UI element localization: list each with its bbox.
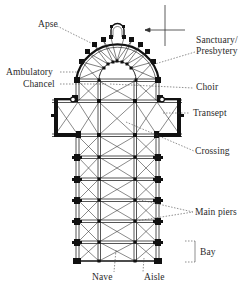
label-crossing: Crossing bbox=[195, 146, 230, 156]
label-transept: Transept bbox=[193, 108, 227, 118]
label-sanctuary: Sanctuary/ bbox=[196, 35, 238, 45]
label-presbytery: Presbytery bbox=[196, 46, 238, 56]
label-bay: Bay bbox=[200, 247, 216, 257]
label-ambulatory: Ambulatory bbox=[6, 67, 53, 77]
label-nave: Nave bbox=[92, 272, 112, 282]
compass-icon bbox=[145, 5, 185, 46]
label-chancel: Chancel bbox=[23, 79, 55, 89]
label-apse: Apse bbox=[38, 19, 58, 29]
label-main-piers: Main piers bbox=[195, 207, 237, 217]
transverse-arches bbox=[52, 79, 182, 261]
label-aisle: Aisle bbox=[144, 272, 165, 282]
rib-vaults bbox=[55, 81, 180, 261]
label-choir: Choir bbox=[196, 82, 218, 92]
ambulatory-arc bbox=[99, 62, 136, 80]
transept-walls bbox=[51, 95, 184, 137]
